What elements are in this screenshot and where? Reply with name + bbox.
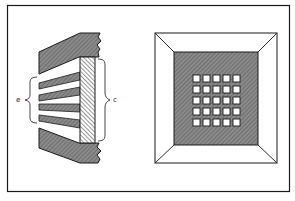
bar-2 <box>39 87 80 101</box>
hatched-band <box>80 57 95 143</box>
label-e: e <box>16 96 20 104</box>
brace-c <box>98 59 110 141</box>
left-cross-section: e c <box>16 33 117 163</box>
diagram-figure: e c <box>0 0 295 201</box>
right-square-frame <box>155 33 277 163</box>
bar-1 <box>39 72 80 89</box>
bar-4 <box>39 115 80 128</box>
brace-e <box>25 77 37 123</box>
bar-3 <box>39 104 80 112</box>
label-c: c <box>113 96 117 104</box>
